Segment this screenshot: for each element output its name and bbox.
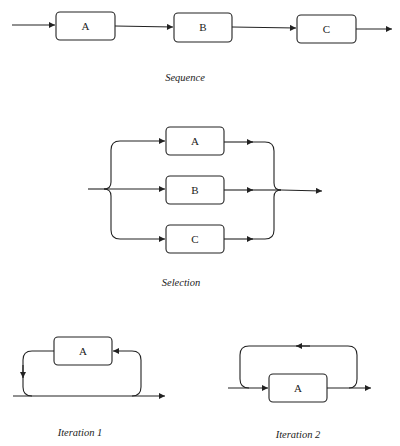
sequence-arrow-a-b <box>115 26 173 27</box>
iteration1-return-arrow <box>113 351 141 396</box>
iteration2-box-a-label: A <box>294 382 302 394</box>
iteration2-caption: Iteration 2 <box>275 429 321 440</box>
iteration2-box-a: A <box>269 374 327 402</box>
selection-box-a-label: A <box>191 135 199 147</box>
selection-exit-arrow <box>281 190 322 191</box>
selection-box-a: A <box>166 127 224 155</box>
sequence-box-a: A <box>56 12 115 40</box>
sequence-box-b: B <box>174 13 232 42</box>
sequence-caption: Sequence <box>165 72 205 83</box>
sequence-box-b-label: B <box>199 21 206 33</box>
selection-right-brace-top <box>250 142 281 190</box>
selection-box-c-label: C <box>191 233 198 245</box>
sequence-box-c: C <box>297 15 356 43</box>
iteration2-diagram: A Iteration 2 <box>228 346 371 440</box>
control-structures-diagram: A B C Sequence A B C <box>0 0 400 446</box>
iteration1-caption: Iteration 1 <box>57 427 103 438</box>
selection-diagram: A B C Selection <box>88 127 322 288</box>
selection-box-b: B <box>166 176 224 204</box>
selection-box-c: C <box>166 225 224 253</box>
sequence-diagram: A B C Sequence <box>12 12 392 83</box>
selection-branch-a-arrow <box>104 141 165 189</box>
selection-box-b-label: B <box>191 184 198 196</box>
selection-caption: Selection <box>162 277 200 288</box>
iteration1-left-loop <box>23 351 54 396</box>
selection-branch-c-arrow <box>104 189 165 239</box>
selection-right-brace-bottom <box>250 190 281 239</box>
iteration1-box-a-label: A <box>79 345 87 357</box>
iteration1-diagram: A Iteration 1 <box>13 337 165 438</box>
sequence-box-c-label: C <box>323 23 330 35</box>
iteration1-box-a: A <box>54 337 112 365</box>
sequence-arrow-b-c <box>232 27 296 28</box>
sequence-box-a-label: A <box>82 20 90 32</box>
